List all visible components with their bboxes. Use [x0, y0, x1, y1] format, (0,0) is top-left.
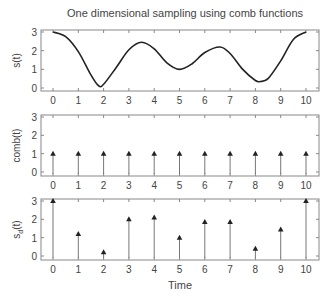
- x-tick-label: 6: [202, 264, 208, 275]
- stem-arrow-icon: [50, 151, 56, 156]
- x-tick-label: 0: [50, 180, 56, 191]
- x-tick-label: 8: [253, 95, 259, 106]
- x-tick-label: 10: [300, 95, 312, 106]
- stem-arrow-icon: [177, 235, 183, 240]
- y-tick-label: 2: [31, 214, 37, 225]
- x-tick-label: 0: [50, 264, 56, 275]
- x-tick-label: 4: [151, 95, 157, 106]
- x-tick-label: 5: [177, 264, 183, 275]
- stem-arrow-icon: [253, 151, 259, 156]
- x-tick-label: 9: [278, 95, 284, 106]
- x-tick-label: 3: [126, 264, 132, 275]
- y-tick-label: 1: [31, 64, 37, 75]
- y-tick-label: 3: [31, 196, 37, 207]
- stem-arrow-icon: [76, 231, 82, 236]
- y-tick-label: 0: [31, 251, 37, 262]
- x-tick-label: 6: [202, 180, 208, 191]
- x-tick-label: 6: [202, 95, 208, 106]
- panel-2: 0123456789100123comb(t): [11, 112, 319, 191]
- y-tick-label: 3: [31, 27, 37, 38]
- stem-arrow-icon: [303, 151, 309, 156]
- figure: One dimensional sampling using comb func…: [0, 0, 333, 301]
- stem-arrow-icon: [278, 151, 284, 156]
- y-tick-label: 1: [31, 233, 37, 244]
- y-tick-label: 3: [31, 112, 37, 123]
- stem-arrow-icon: [151, 215, 157, 220]
- y-axis-label: sd(t): [11, 220, 24, 238]
- stem-arrow-icon: [76, 151, 82, 156]
- x-tick-label: 2: [101, 95, 107, 106]
- x-tick-label: 10: [300, 264, 312, 275]
- x-tick-label: 10: [300, 180, 312, 191]
- stem-arrow-icon: [227, 151, 233, 156]
- x-tick-label: 2: [101, 264, 107, 275]
- x-tick-label: 4: [151, 180, 157, 191]
- x-tick-label: 7: [227, 264, 233, 275]
- x-tick-label: 8: [253, 180, 259, 191]
- panel-3: 0123456789100123sd(t): [11, 196, 319, 275]
- x-tick-label: 9: [278, 180, 284, 191]
- stem-arrow-icon: [101, 249, 107, 254]
- stem-arrow-icon: [126, 151, 132, 156]
- y-tick-label: 0: [31, 83, 37, 94]
- panel-1: 0123456789100123s(t): [11, 27, 319, 106]
- stem-arrow-icon: [202, 219, 208, 224]
- x-tick-label: 3: [126, 95, 132, 106]
- x-tick-label: 1: [76, 95, 82, 106]
- x-tick-label: 2: [101, 180, 107, 191]
- x-axis-label: Time: [168, 279, 192, 291]
- x-tick-label: 9: [278, 264, 284, 275]
- x-tick-label: 5: [177, 95, 183, 106]
- x-tick-label: 7: [227, 95, 233, 106]
- y-axis-label: comb(t): [11, 129, 22, 163]
- signal-curve: [53, 32, 306, 87]
- x-tick-label: 3: [126, 180, 132, 191]
- stem-arrow-icon: [253, 246, 259, 251]
- stem-arrow-icon: [126, 216, 132, 221]
- stem-arrow-icon: [202, 151, 208, 156]
- y-tick-label: 0: [31, 167, 37, 178]
- y-tick-label: 1: [31, 149, 37, 160]
- y-tick-label: 2: [31, 130, 37, 141]
- stem-arrow-icon: [278, 226, 284, 231]
- x-tick-label: 0: [50, 95, 56, 106]
- stem-arrow-icon: [227, 219, 233, 224]
- y-tick-label: 2: [31, 46, 37, 57]
- y-axis-label: s(t): [11, 53, 22, 67]
- x-tick-label: 7: [227, 180, 233, 191]
- stem-arrow-icon: [101, 151, 107, 156]
- stem-arrow-icon: [177, 151, 183, 156]
- x-tick-label: 8: [253, 264, 259, 275]
- stem-arrow-icon: [151, 151, 157, 156]
- chart-title: One dimensional sampling using comb func…: [67, 7, 304, 19]
- x-tick-label: 1: [76, 264, 82, 275]
- x-tick-label: 5: [177, 180, 183, 191]
- x-tick-label: 1: [76, 180, 82, 191]
- x-tick-label: 4: [151, 264, 157, 275]
